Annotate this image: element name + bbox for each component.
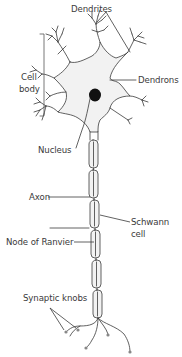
label-dendrites: Dendrites [71,4,112,14]
label-schwann-cell-line2: cell [131,229,145,239]
nucleus [89,89,101,102]
label-schwann-cell-line1: Schwann [131,217,169,227]
neuron-diagram: Dendrites Cell body Dendrons Nucleus Axo… [0,0,182,357]
label-cell-body-line2: body [19,84,40,94]
label-node-of-ranvier: Node of Ranvier [6,237,73,247]
neuron-illustration [0,0,182,357]
cell-body-outline [54,42,130,132]
label-nucleus: Nucleus [38,145,72,155]
label-synaptic-knobs: Synaptic knobs [23,293,87,303]
label-cell-body-line1: Cell [21,72,37,82]
axon-segments [89,140,102,318]
label-axon: Axon [29,192,50,202]
label-dendrons: Dendrons [138,75,179,85]
